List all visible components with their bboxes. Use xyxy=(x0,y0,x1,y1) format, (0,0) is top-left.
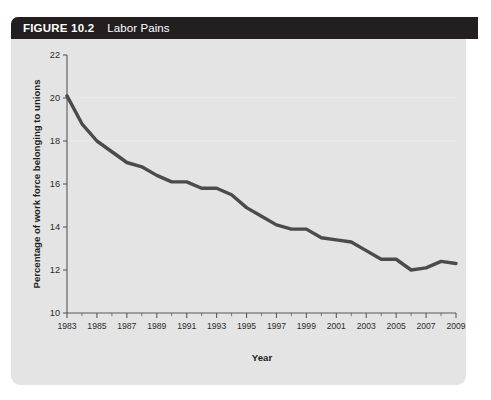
figure-header-bar: FIGURE 10.2 Labor Pains xyxy=(11,17,478,39)
figure-container: FIGURE 10.2 Labor Pains 10121416182022 1… xyxy=(0,0,491,400)
figure-number-label: FIGURE 10.2 xyxy=(23,22,94,34)
figure-panel xyxy=(11,22,466,385)
figure-title-label: Labor Pains xyxy=(107,22,169,34)
